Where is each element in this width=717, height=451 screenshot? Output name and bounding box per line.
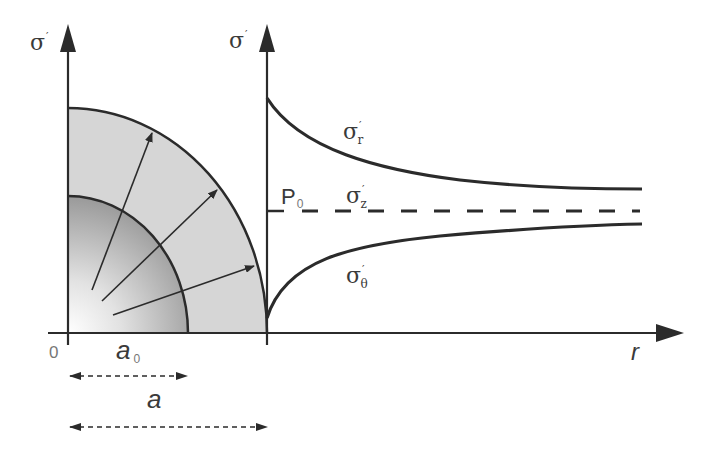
r-axis-label: r — [631, 340, 639, 364]
right-axis-arrowhead — [259, 24, 275, 52]
p0-label: P0 — [281, 186, 302, 208]
origin-label: 0 — [49, 344, 58, 361]
sigma-r-curve — [267, 98, 642, 189]
sigma-r-label: σ′r — [343, 121, 366, 143]
right-axis-label: σ′ — [229, 30, 247, 52]
sigma-theta-label: σ′θ — [346, 265, 371, 287]
left-axis-label: σ′ — [30, 32, 48, 54]
sigma-theta-curve — [267, 224, 642, 318]
stress-diagram — [0, 0, 717, 451]
left-axis-arrowhead — [60, 24, 76, 52]
sigma-z-label: σ′z — [346, 185, 370, 207]
r-axis-arrowhead — [656, 324, 684, 342]
a-label: a — [147, 386, 161, 412]
a0-label: a0 — [116, 337, 137, 363]
